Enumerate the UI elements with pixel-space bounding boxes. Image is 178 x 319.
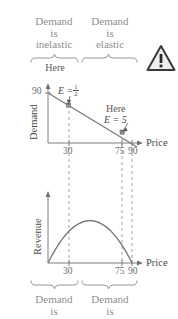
- bottom-label-elastic-line2: is: [82, 306, 138, 318]
- revenue-x-axis-arrow: [137, 261, 143, 266]
- elasticity-label-inelastic: E =12: [58, 84, 79, 99]
- demand-x-ticklabel-75: 75: [115, 147, 125, 157]
- bottom-label-elastic: Demand is: [82, 294, 138, 317]
- elasticity-inelastic-prefix: E =: [58, 85, 73, 96]
- revenue-chart-axes: [48, 196, 138, 263]
- demand-x-ticklabel-90: 90: [128, 147, 138, 157]
- demand-x-axis-arrow: [137, 141, 143, 146]
- figure-vector-layer: [0, 0, 178, 319]
- brace-inelastic-bottom: [31, 281, 78, 289]
- revenue-y-axis-title: Revenue: [32, 218, 43, 255]
- here-label-mid: Here: [106, 104, 125, 115]
- demand-x-axis-title: Price: [146, 137, 168, 148]
- fraction-denominator: 2: [73, 91, 78, 98]
- revenue-curve: [48, 221, 132, 264]
- bottom-label-inelastic-line1: Demand: [26, 294, 82, 306]
- demand-x-ticklabel-30: 30: [63, 147, 73, 157]
- revenue-x-axis-title: Price: [146, 257, 168, 268]
- revenue-x-ticklabel-90: 90: [128, 267, 138, 277]
- elasticity-label-elastic: E = 5: [104, 115, 127, 126]
- bottom-label-inelastic: Demand is: [26, 294, 82, 317]
- revenue-x-ticklabel-75: 75: [115, 267, 125, 277]
- dashed-connector-lines: [69, 105, 132, 263]
- revenue-y-axis-arrow: [46, 191, 51, 197]
- here-label-top: Here: [40, 63, 70, 74]
- bottom-label-elastic-line1: Demand: [82, 294, 138, 306]
- bottom-label-inelastic-line2: is: [26, 306, 82, 318]
- demand-y-axis-title: Demand: [28, 104, 39, 140]
- brace-elastic-top: [82, 55, 137, 63]
- demand-y-ticklabel-90: 90: [32, 87, 42, 97]
- demand-y-axis-arrow: [46, 83, 51, 89]
- revenue-x-ticklabel-30: 30: [63, 267, 73, 277]
- brace-elastic-bottom: [82, 281, 137, 289]
- brace-inelastic-top: [31, 55, 78, 63]
- elasticity-inelastic-fraction: 12: [73, 84, 78, 99]
- elasticity-figure: Demand is inelastic Demand is elastic: [0, 0, 178, 319]
